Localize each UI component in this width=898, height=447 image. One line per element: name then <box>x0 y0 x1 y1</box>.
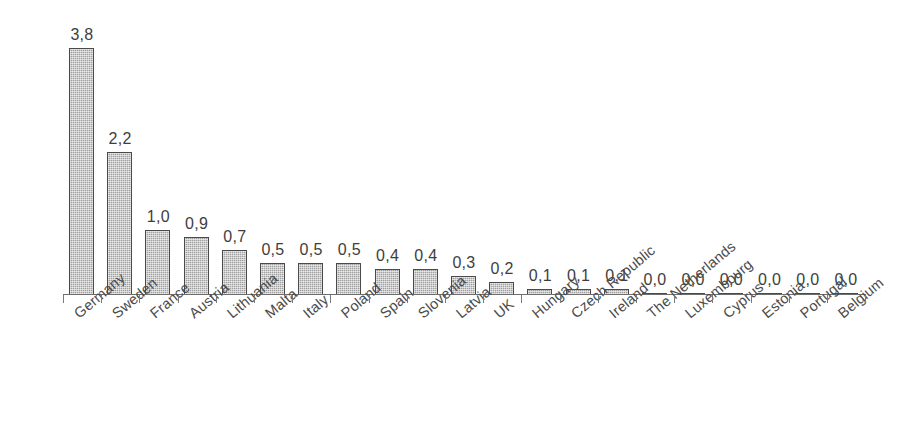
bar-value-label: 0,7 <box>216 228 254 246</box>
axis-tick <box>254 295 255 303</box>
axis-tick <box>216 295 217 303</box>
axis-tick <box>827 295 828 303</box>
bar-group: 0,9 <box>178 10 216 295</box>
bar-value-label: 0,5 <box>292 241 330 259</box>
bar-group: 0,0 <box>789 10 827 295</box>
bar-value-label: 0,1 <box>521 267 559 285</box>
bar-group: 0,0 <box>751 10 789 295</box>
category-label: Italy <box>300 291 331 321</box>
plot-area: 3,82,21,00,90,70,50,50,50,40,40,30,20,10… <box>63 10 865 295</box>
bar-value-label: 0,3 <box>445 254 483 272</box>
bar-value-label: 2,2 <box>101 130 139 148</box>
category-label: UK <box>491 296 517 321</box>
bar-group: 0,5 <box>254 10 292 295</box>
bar-group: 0,5 <box>330 10 368 295</box>
bar-group: 0,1 <box>598 10 636 295</box>
bar-value-label: 0,9 <box>178 215 216 233</box>
axis-tick <box>636 295 637 303</box>
bar-group: 0,5 <box>292 10 330 295</box>
bar-group: 0,1 <box>560 10 598 295</box>
bar-group: 0,1 <box>521 10 559 295</box>
axis-tick <box>101 295 102 303</box>
axis-tick <box>178 295 179 303</box>
axis-tick <box>751 295 752 303</box>
bar-group: 1,0 <box>139 10 177 295</box>
bar <box>336 263 361 296</box>
bar-value-label: 0,4 <box>369 247 407 265</box>
axis-tick <box>445 295 446 303</box>
bar-value-label: 0,2 <box>483 260 521 278</box>
axis-tick <box>560 295 561 303</box>
axis-tick <box>674 295 675 303</box>
bar-group: 0,2 <box>483 10 521 295</box>
bar-group: 0,4 <box>369 10 407 295</box>
bar-group: 0,4 <box>407 10 445 295</box>
bar <box>413 269 438 295</box>
bar-chart: 3,82,21,00,90,70,50,50,50,40,40,30,20,10… <box>0 0 898 447</box>
axis-tick <box>789 295 790 303</box>
bar-group: 0,0 <box>674 10 712 295</box>
axis-tick <box>483 295 484 303</box>
axis-tick <box>330 295 331 303</box>
bar-group: 0,0 <box>827 10 865 295</box>
bar-group: 0,7 <box>216 10 254 295</box>
category-axis-labels: GermanySwedenFranceAustriaLithuaniaMalta… <box>0 295 898 447</box>
axis-tick <box>712 295 713 303</box>
bar-value-label: 0,5 <box>330 241 368 259</box>
axis-tick <box>521 295 522 303</box>
axis-tick <box>407 295 408 303</box>
bar-value-label: 0,5 <box>254 241 292 259</box>
axis-tick <box>139 295 140 303</box>
bar <box>69 48 94 295</box>
axis-tick <box>865 295 866 303</box>
bar-group: 3,8 <box>63 10 101 295</box>
bar-value-label: 0,4 <box>407 247 445 265</box>
axis-tick <box>292 295 293 303</box>
axis-tick <box>63 295 64 303</box>
bar-group: 2,2 <box>101 10 139 295</box>
bar <box>298 263 323 296</box>
axis-tick <box>369 295 370 303</box>
bar-value-label: 3,8 <box>63 26 101 44</box>
bar-value-label: 1,0 <box>139 208 177 226</box>
bar-group: 0,3 <box>445 10 483 295</box>
axis-tick <box>598 295 599 303</box>
